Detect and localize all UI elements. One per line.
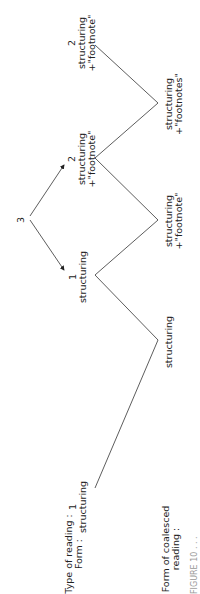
branch-label: 3 <box>16 217 26 223</box>
top-node-3: 2structuring+"footnote" <box>67 124 97 194</box>
bottom-node-1: structuring <box>164 307 174 377</box>
arrow-to-2 <box>30 165 64 216</box>
zigzag-line <box>95 45 158 488</box>
type-of-reading-label: Type of reading :Form : <box>64 514 84 594</box>
top-node-4: 2structuring+"footnote" <box>67 8 97 78</box>
bottom-node-3: structuring+"footnotes" <box>164 69 184 139</box>
top-node-2: 1structuring <box>68 242 88 312</box>
arrow-to-1 <box>30 220 64 270</box>
coalesced-label: Form of coalescedreading : <box>161 504 181 594</box>
figure-caption: FIGURE 10 . . . <box>190 536 199 594</box>
bottom-node-2: structuring+"footnote" <box>164 186 184 256</box>
